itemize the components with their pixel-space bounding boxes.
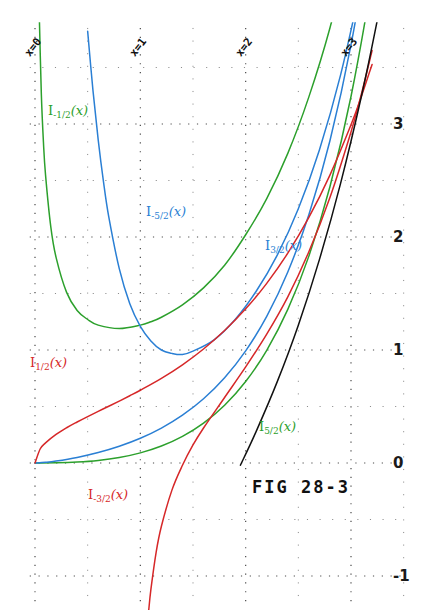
plot-area <box>0 0 423 612</box>
curve-I-1-2-x <box>35 64 372 463</box>
curves-layer <box>35 0 393 610</box>
curve-I-3-2-x <box>149 51 372 610</box>
bessel-function-figure: 3 2 1 0 -1 x=0 x=1 x=2 x=3 I-1/2(x) I-5/… <box>0 0 423 612</box>
